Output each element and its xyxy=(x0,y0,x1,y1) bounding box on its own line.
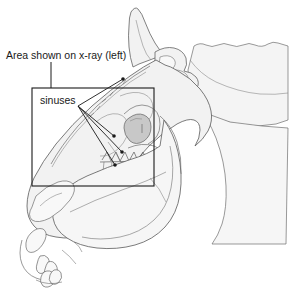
sinus-marker-dot-4 xyxy=(121,77,125,81)
sinus-marker-dot-3 xyxy=(113,163,117,167)
sinuses-label: sinuses xyxy=(40,94,76,106)
incisors-group xyxy=(36,255,62,287)
figure-root: Area shown on x-ray (left) sinuses xyxy=(0,0,294,306)
callout-label: Area shown on x-ray (left) xyxy=(6,49,126,61)
sinus-marker-dot-2 xyxy=(120,150,124,154)
nostril-opening xyxy=(26,229,46,253)
hyoid-detail-2 xyxy=(62,250,76,264)
horse-skull-diagram: Area shown on x-ray (left) sinuses xyxy=(0,0,294,306)
sinus-marker-dot-1 xyxy=(112,134,116,138)
